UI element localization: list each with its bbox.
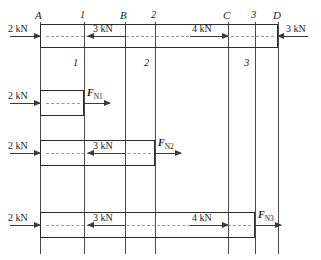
internal-force-label-n1: FN1: [87, 88, 103, 100]
section-label-1-top: 1: [80, 10, 85, 21]
internal-force-symbol-n1: F: [87, 87, 94, 98]
guide-line-section-3: [255, 22, 256, 254]
node-label-D: D: [273, 10, 281, 21]
load-label-3kn-B-seg3: 3 kN: [93, 213, 113, 223]
load-arrow-4kn-C-full: [190, 36, 228, 37]
centerline-full-bar: [46, 36, 274, 37]
guide-line-section-D: [278, 22, 279, 254]
node-label-C: C: [223, 10, 230, 21]
node-label-A: A: [35, 10, 42, 21]
load-label-2kn-A-seg3: 2 kN: [8, 213, 28, 223]
load-arrow-3kn-B-full: [88, 36, 125, 37]
centerline-segment-A-1: [46, 103, 80, 104]
load-arrow-3kn-B-seg2: [88, 153, 125, 154]
section-label-3-top: 3: [251, 10, 256, 21]
load-label-3kn-D-full: 3 kN: [286, 24, 306, 34]
section-mark-2-under-bar: 2: [144, 58, 149, 69]
load-label-2kn-A-seg1: 2 kN: [8, 91, 28, 101]
internal-force-symbol-n2: F: [158, 137, 165, 148]
internal-force-subscript-n2: N2: [165, 142, 174, 151]
load-arrow-3kn-D-full: [278, 36, 308, 37]
section-mark-3-under-bar: 3: [244, 58, 249, 69]
load-arrow-3kn-B-seg3: [88, 225, 125, 226]
load-label-4kn-C-seg3: 4 kN: [192, 213, 212, 223]
internal-force-subscript-n1: N1: [94, 92, 103, 101]
internal-force-label-n3: FN3: [258, 210, 274, 222]
load-label-2kn-A-seg2: 2 kN: [8, 141, 28, 151]
load-arrow-4kn-C-seg3: [190, 225, 228, 226]
load-arrow-2kn-A-seg3: [10, 225, 40, 226]
load-arrow-2kn-A-seg1: [10, 103, 40, 104]
load-arrow-2kn-A-seg2: [10, 153, 40, 154]
section-label-2-top: 2: [151, 10, 156, 21]
load-label-4kn-C-full: 4 kN: [192, 24, 212, 34]
internal-force-arrow-n3: [255, 225, 281, 226]
axial-force-diagram-figure: A 1 B 2 C 3 D 2 kN 3 kN 4 kN 3 kN 1 2 3 …: [0, 0, 321, 260]
section-mark-1-under-bar: 1: [73, 58, 78, 69]
load-label-3kn-B-seg2: 3 kN: [93, 141, 113, 151]
internal-force-label-n2: FN2: [158, 138, 174, 150]
internal-force-subscript-n3: N3: [265, 214, 274, 223]
internal-force-arrow-n2: [155, 153, 181, 154]
node-label-B: B: [120, 10, 127, 21]
internal-force-symbol-n3: F: [258, 209, 265, 220]
load-label-2kn-A-full: 2 kN: [8, 24, 28, 34]
load-label-3kn-B-full: 3 kN: [93, 24, 113, 34]
internal-force-arrow-n1: [84, 103, 110, 104]
load-arrow-2kn-A-full: [10, 36, 40, 37]
